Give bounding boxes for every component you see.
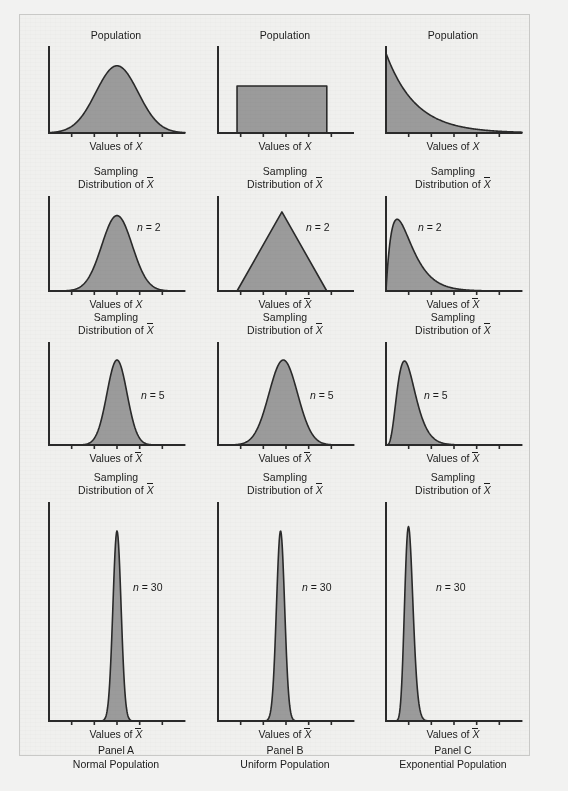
panel-b-row-1-n-label: n = 2 [306, 221, 330, 233]
panel-a-row-1-n-label: n = 2 [137, 221, 161, 233]
panel-a-row-3-plot [41, 499, 191, 731]
panel-c-caption-line2: Exponential Population [378, 757, 528, 771]
figure-root: PopulationValues of XSamplingDistributio… [0, 0, 568, 791]
x-symbol: X [304, 140, 311, 152]
panel-b-row-2-curve [218, 360, 354, 445]
panel-a-row-2-axis-label: Values of X [41, 452, 191, 465]
x-bar-symbol: X [316, 484, 323, 497]
x-symbol: X [135, 140, 142, 152]
x-bar-symbol: X [147, 484, 154, 497]
x-bar-symbol: X [304, 452, 311, 465]
x-bar-symbol: X [316, 324, 323, 337]
panel-b-row-0-plot [210, 43, 360, 143]
panel-b-row-3-curve [218, 531, 354, 721]
panel-c-row-2-plot [378, 339, 528, 455]
panel-a-row-0-title: Population [41, 29, 191, 42]
panel-b-row-3-n-label: n = 30 [302, 581, 332, 593]
panel-a-caption-line1: Panel A [41, 743, 191, 757]
panel-a-row-1-curve [49, 216, 185, 291]
panel-c-row-1-n-label: n = 2 [418, 221, 442, 233]
panel-b-row-1-title: SamplingDistribution of X [210, 165, 360, 190]
panel-a-row-3-title: SamplingDistribution of X [41, 471, 191, 496]
panel-b-row-3-title: SamplingDistribution of X [210, 471, 360, 496]
figure-frame: PopulationValues of XSamplingDistributio… [19, 14, 530, 756]
panel-a-row-3-curve [49, 531, 185, 721]
x-bar-symbol: X [135, 728, 142, 741]
panel-b-row-2-plot [210, 339, 360, 455]
panel-b-row-3-axis-label: Values of X [210, 728, 360, 741]
x-bar-symbol: X [472, 728, 479, 741]
panel-c-row-3-plot [378, 499, 528, 731]
panel-a-row-0-curve [49, 66, 185, 133]
panel-a-row-1-plot [41, 193, 191, 301]
panel-c-row-0-plot [378, 43, 528, 143]
panel-a-caption-line2: Normal Population [41, 757, 191, 771]
panel-c-row-1-axis-label: Values of X [378, 298, 528, 311]
panel-c-caption: Panel CExponential Population [378, 743, 528, 771]
panel-a-row-0-axis-label: Values of X [41, 140, 191, 153]
panel-c-row-3-curve [386, 527, 522, 721]
x-bar-symbol: X [484, 484, 491, 497]
x-bar-symbol: X [147, 178, 154, 191]
panel-c-row-3-title: SamplingDistribution of X [378, 471, 528, 496]
x-bar-symbol: X [472, 452, 479, 465]
panel-b-row-2-axis-label: Values of X [210, 452, 360, 465]
panel-a-row-1-title: SamplingDistribution of X [41, 165, 191, 190]
panel-b-row-0-curve [218, 86, 327, 133]
panel-a-row-3-axis-label: Values of X [41, 728, 191, 741]
panel-b-caption: Panel BUniform Population [210, 743, 360, 771]
x-bar-symbol: X [484, 324, 491, 337]
panel-a-row-2-title: SamplingDistribution of X [41, 311, 191, 336]
panel-a-row-2-n-label: n = 5 [141, 389, 165, 401]
x-bar-symbol: X [316, 178, 323, 191]
x-symbol: X [472, 140, 479, 152]
panel-grid: PopulationValues of XSamplingDistributio… [20, 15, 531, 757]
panel-b-row-2-n-label: n = 5 [310, 389, 334, 401]
x-bar-symbol: X [484, 178, 491, 191]
x-bar-symbol: X [304, 298, 311, 311]
x-bar-symbol: X [147, 324, 154, 337]
panel-c-row-0-axis-label: Values of X [378, 140, 528, 153]
x-bar-symbol: X [304, 728, 311, 741]
panel-c-row-2-axis-label: Values of X [378, 452, 528, 465]
panel-b-row-0-axis-label: Values of X [210, 140, 360, 153]
panel-c-row-1-curve [386, 219, 522, 291]
panel-c-row-2-n-label: n = 5 [424, 389, 448, 401]
x-bar-symbol: X [135, 452, 142, 465]
panel-b-row-1-plot [210, 193, 360, 301]
panel-a-row-3-n-label: n = 30 [133, 581, 163, 593]
panel-c-row-0-curve [386, 53, 522, 133]
panel-b-row-2-title: SamplingDistribution of X [210, 311, 360, 336]
panel-a-row-0-plot [41, 43, 191, 143]
x-bar-symbol: X [472, 298, 479, 311]
panel-b-caption-line2: Uniform Population [210, 757, 360, 771]
panel-c-row-0-title: Population [378, 29, 528, 42]
panel-c-row-1-title: SamplingDistribution of X [378, 165, 528, 190]
panel-a-row-1-axis-label: Values of X [41, 298, 191, 311]
panel-b-caption-line1: Panel B [210, 743, 360, 757]
panel-b-row-3-plot [210, 499, 360, 731]
panel-b-row-1-axis-label: Values of X [210, 298, 360, 311]
panel-a-row-2-curve [49, 360, 185, 445]
panel-c-row-2-curve [386, 361, 522, 445]
x-symbol: X [135, 298, 142, 310]
panel-c-row-2-title: SamplingDistribution of X [378, 311, 528, 336]
panel-c-row-3-axis-label: Values of X [378, 728, 528, 741]
panel-c-row-3-n-label: n = 30 [436, 581, 466, 593]
panel-a-row-2-plot [41, 339, 191, 455]
panel-b-row-0-title: Population [210, 29, 360, 42]
panel-c-row-1-plot [378, 193, 528, 301]
panel-a-caption: Panel ANormal Population [41, 743, 191, 771]
panel-c-caption-line1: Panel C [378, 743, 528, 757]
